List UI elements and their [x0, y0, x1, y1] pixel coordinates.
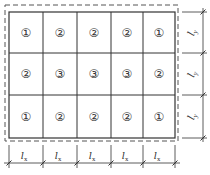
y-span-label: ly	[185, 68, 200, 79]
cell-zone-label: ②	[21, 67, 32, 81]
cell-zone-label: ②	[55, 26, 66, 40]
x-span-label: lx	[122, 150, 129, 162]
cell-zone-label: ②	[89, 26, 100, 40]
x-span-label: lx	[21, 150, 28, 162]
cell-zone-label: ②	[89, 110, 100, 124]
y-dimension: lylyly	[182, 8, 207, 142]
panel-grid-diagram: ①②②②①②③③③②①②②②① lxlxlxlxlx lylyly	[0, 0, 210, 175]
cell-zone-label: ①	[21, 110, 32, 124]
cell-zone-label: ②	[154, 67, 165, 81]
cell-zone-label: ①	[21, 26, 32, 40]
x-dimension: lxlxlxlxlx	[4, 145, 180, 168]
x-span-label: lx	[89, 150, 96, 162]
x-span-label: lx	[154, 150, 161, 162]
y-span-label: ly	[185, 27, 200, 38]
cell-zone-label: ①	[154, 26, 165, 40]
y-span-label: ly	[185, 111, 200, 122]
cell-zone-label: ①	[154, 110, 165, 124]
cell-zone-label: ②	[122, 110, 133, 124]
x-span-label: lx	[55, 150, 62, 162]
cell-zone-label: ②	[55, 110, 66, 124]
cell-zone-label: ③	[122, 67, 133, 81]
cell-zone-label: ③	[89, 67, 100, 81]
cell-zone-label: ③	[55, 67, 66, 81]
cell-zone-label: ②	[122, 26, 133, 40]
